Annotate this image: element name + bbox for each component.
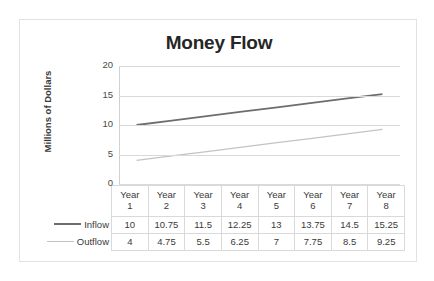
data-cell: 4.75	[148, 234, 185, 251]
column-header-line2: 7	[332, 201, 368, 212]
legend-swatch-icon	[47, 241, 74, 242]
data-cell: 9.25	[368, 234, 405, 251]
grid-line	[119, 125, 400, 126]
column-header-line2: 6	[295, 201, 331, 212]
data-cell: 13	[258, 217, 295, 234]
chart-title: Money Flow	[20, 32, 418, 54]
table-row: Inflow1010.7511.512.251313.7514.515.25	[33, 217, 405, 234]
column-header-line2: 4	[222, 201, 258, 212]
column-header-line2: 8	[368, 201, 404, 212]
data-cell: 11.5	[185, 217, 222, 234]
series-line-outflow	[137, 129, 383, 160]
column-header-line2: 3	[185, 201, 221, 212]
data-cell: 7	[258, 234, 295, 251]
column-header-year-1: Year1	[112, 186, 149, 217]
column-header-year-4: Year4	[221, 186, 258, 217]
table-corner-blank	[33, 186, 112, 217]
y-axis-tick-label: 20	[87, 59, 113, 70]
column-header-line2: 1	[112, 201, 148, 212]
data-cell: 7.75	[295, 234, 332, 251]
legend-entry-inflow: Inflow	[33, 217, 112, 234]
data-cell: 4	[112, 234, 149, 251]
grid-line	[119, 96, 400, 97]
grid-line	[119, 155, 400, 156]
data-cell: 5.5	[185, 234, 222, 251]
legend-entry-outflow: Outflow	[33, 234, 112, 251]
data-cell: 15.25	[368, 217, 405, 234]
column-header-year-5: Year5	[258, 186, 295, 217]
column-header-year-8: Year8	[368, 186, 405, 217]
column-header-line2: 5	[259, 201, 295, 212]
data-cell: 10.75	[148, 217, 185, 234]
legend-swatch-icon	[54, 223, 81, 225]
y-axis-tick-label: 10	[87, 118, 113, 129]
data-cell: 13.75	[295, 217, 332, 234]
legend-label: Outflow	[77, 237, 109, 248]
data-table: Year1Year2Year3Year4Year5Year6Year7Year8…	[33, 185, 405, 251]
column-header-line2: 2	[149, 201, 185, 212]
data-cell: 8.5	[331, 234, 368, 251]
grid-line	[119, 66, 400, 67]
plot-area	[119, 66, 400, 184]
column-header-year-2: Year2	[148, 186, 185, 217]
series-line-inflow	[137, 94, 383, 125]
legend-label: Inflow	[84, 220, 109, 231]
column-header-year-3: Year3	[185, 186, 222, 217]
y-axis-tick-label: 5	[87, 148, 113, 159]
data-cell: 10	[112, 217, 149, 234]
data-cell: 12.25	[221, 217, 258, 234]
column-header-year-6: Year6	[295, 186, 332, 217]
column-header-year-7: Year7	[331, 186, 368, 217]
table-row: Outflow44.755.56.2577.758.59.25	[33, 234, 405, 251]
table-header-row: Year1Year2Year3Year4Year5Year6Year7Year8	[33, 186, 405, 217]
chart-container: Money Flow Millions of Dollars Year1Year…	[19, 19, 417, 262]
data-cell: 14.5	[331, 217, 368, 234]
y-axis-tick-label: 0	[87, 177, 113, 188]
y-axis-tick-label: 15	[87, 89, 113, 100]
y-axis-title: Millions of Dollars	[42, 52, 53, 172]
data-cell: 6.25	[221, 234, 258, 251]
